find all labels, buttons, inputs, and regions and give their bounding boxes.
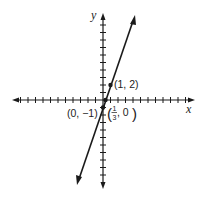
label-rest: , 0 [117, 106, 129, 118]
label-point-1-2: (1, 2) [114, 78, 139, 90]
fraction-numerator: 1 [113, 105, 117, 112]
point-0-minus1 [101, 105, 105, 109]
label-point-0-minus1: (0, −1) [67, 107, 98, 119]
line-top-arrow-icon [130, 15, 136, 25]
svg-text:): ) [132, 105, 137, 122]
y-axis-label: y [90, 8, 97, 22]
line-bottom-arrow-icon [76, 175, 82, 185]
point-1-2 [108, 83, 112, 87]
x-axis-label: x [185, 102, 192, 116]
point-third-0 [103, 98, 107, 102]
fraction-denominator: 3 [113, 114, 117, 121]
y-axis-down-arrow-icon [101, 182, 106, 189]
svg-text:(: ( [107, 105, 112, 122]
x-axis-left-arrow-icon [12, 98, 19, 103]
coordinate-plane: y x (1, 2) (0, −1) ( 1 3 , 0 ) [0, 0, 205, 204]
label-point-third-0: ( 1 3 , 0 ) [107, 105, 137, 123]
y-axis-up-arrow-icon [101, 13, 106, 20]
